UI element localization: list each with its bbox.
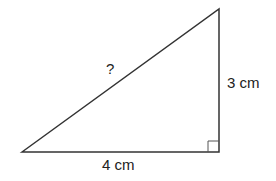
- triangle-diagram: ? 3 cm 4 cm: [0, 0, 276, 181]
- vertical-side-label: 3 cm: [227, 74, 260, 91]
- triangle: [22, 9, 219, 152]
- hypotenuse-label: ?: [106, 60, 114, 77]
- base-label: 4 cm: [102, 156, 135, 173]
- right-angle-marker: [208, 141, 219, 152]
